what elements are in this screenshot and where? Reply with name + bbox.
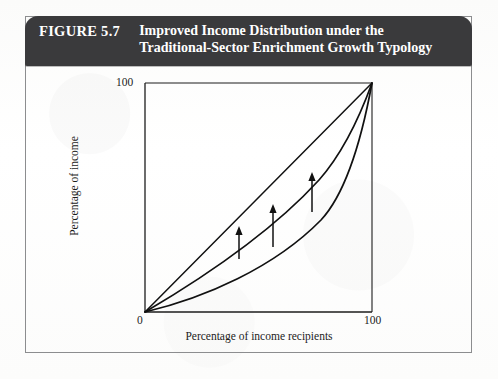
x-axis-tick-100: 100 bbox=[364, 314, 381, 326]
figure-card bbox=[25, 16, 472, 353]
x-axis-label: Percentage of income recipients bbox=[145, 330, 373, 342]
y-axis-label: Percentage of income bbox=[68, 106, 80, 266]
x-axis-tick-0: 0 bbox=[137, 314, 143, 326]
figure-number-label: FIGURE 5.7 bbox=[39, 22, 120, 40]
y-axis-tick-100: 100 bbox=[116, 76, 133, 88]
figure-title-label: Improved Income Distribution under the T… bbox=[139, 22, 458, 56]
figure-header-bar: FIGURE 5.7 Improved Income Distribution … bbox=[25, 16, 472, 66]
